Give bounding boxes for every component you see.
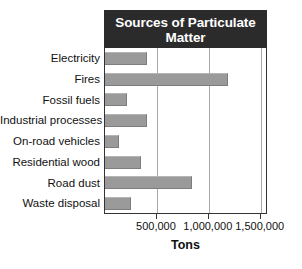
bar-row (105, 193, 268, 214)
x-tick-mark (156, 214, 157, 219)
chart-title-bar: Sources of Particulate Matter (104, 10, 267, 48)
x-tick-mark (260, 214, 261, 219)
bar (105, 197, 131, 210)
x-axis-title: Tons (104, 238, 267, 252)
bar-row (105, 131, 268, 152)
bar (105, 52, 147, 65)
x-tick-label: 500,000 (136, 220, 176, 232)
bar (105, 73, 228, 86)
bar-row (105, 152, 268, 173)
category-label: On-road vehicles (0, 131, 100, 152)
category-label: Waste disposal (0, 193, 100, 214)
bar-row (105, 173, 268, 194)
bar (105, 156, 141, 169)
category-label: Fires (0, 69, 100, 90)
bar (105, 176, 192, 189)
chart-title-line-2: Matter (166, 30, 206, 45)
bar-row (105, 69, 268, 90)
category-label: Residential wood (0, 152, 100, 173)
category-label: Electricity (0, 48, 100, 69)
plot-area (104, 48, 267, 214)
bar-row (105, 90, 268, 111)
particulate-matter-bar-chart: Sources of Particulate Matter Electricit… (0, 0, 302, 269)
bar (105, 93, 127, 106)
bar-row (105, 48, 268, 69)
category-label: Road dust (0, 173, 100, 194)
bar-row (105, 110, 268, 131)
x-tick-label: 1,500,000 (235, 220, 284, 232)
bar (105, 135, 119, 148)
x-tick-label: 1,000,000 (183, 220, 232, 232)
x-tick-mark (208, 214, 209, 219)
chart-title: Sources of Particulate Matter (115, 15, 255, 45)
chart-title-line-1: Sources of Particulate (115, 15, 255, 30)
bars-layer (105, 48, 266, 213)
category-label: Fossil fuels (0, 90, 100, 111)
category-label: Industrial processes (0, 110, 100, 131)
category-axis-labels: ElectricityFiresFossil fuelsIndustrial p… (0, 48, 100, 214)
bar (105, 114, 147, 127)
